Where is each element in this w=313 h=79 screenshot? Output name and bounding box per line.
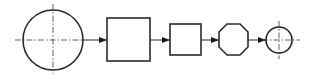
large-circle-node: [15, 4, 84, 74]
small-square-node: [170, 24, 201, 55]
large-square-node: [107, 18, 150, 61]
octagon-node: [219, 24, 248, 55]
small-circle-node: [262, 21, 300, 59]
shape-flow-diagram: [0, 0, 313, 79]
